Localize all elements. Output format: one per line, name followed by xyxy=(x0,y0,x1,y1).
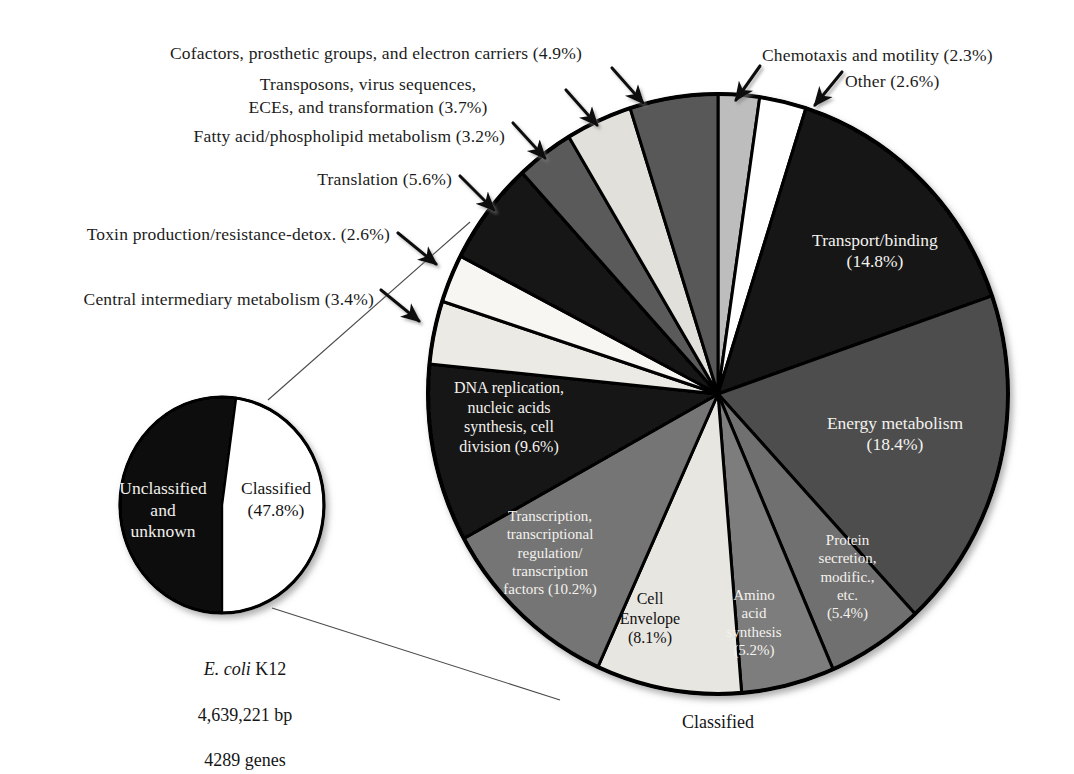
arrow-translation xyxy=(460,176,494,210)
caption-bp: 4,639,221 bp xyxy=(130,704,360,727)
callout-fatty-acid: Fatty acid/phospholipid metabolism (3.2%… xyxy=(50,125,505,148)
arrow-other xyxy=(815,72,842,105)
main-pie xyxy=(428,94,1008,694)
caption-organism-name: E. coli xyxy=(204,659,251,679)
small-pie-slice-classified[interactable] xyxy=(222,398,324,613)
arrow-toxin xyxy=(398,233,436,264)
arrow-central-intermediary xyxy=(381,290,419,321)
callout-chemotaxis: Chemotaxis and motility (2.3%) xyxy=(762,44,1072,67)
callout-transposons: Transposons, virus sequences, ECEs, and … xyxy=(178,73,558,119)
classified-bottom-label: Classified xyxy=(638,712,798,733)
small-pie-slice-unclassified[interactable] xyxy=(120,397,236,613)
small-pie xyxy=(120,397,324,613)
callout-toxin: Toxin production/resistance-detox. (2.6%… xyxy=(10,223,390,246)
callout-cofactors: Cofactors, prosthetic groups, and electr… xyxy=(136,42,616,65)
organism-caption: E. coli K12 4,639,221 bp 4289 genes xyxy=(130,613,360,774)
arrow-fatty-acid xyxy=(513,123,545,158)
caption-genes: 4289 genes xyxy=(130,749,360,772)
callout-translation: Translation (5.6%) xyxy=(80,168,452,191)
callout-central-intermediary: Central intermediary metabolism (3.4%) xyxy=(0,288,374,311)
arrow-transposons xyxy=(566,90,597,125)
callout-other: Other (2.6%) xyxy=(845,70,1045,93)
arrow-cofactors xyxy=(612,68,643,103)
caption-organism-line: E. coli K12 xyxy=(130,636,360,681)
caption-organism-strain: K12 xyxy=(251,659,287,679)
